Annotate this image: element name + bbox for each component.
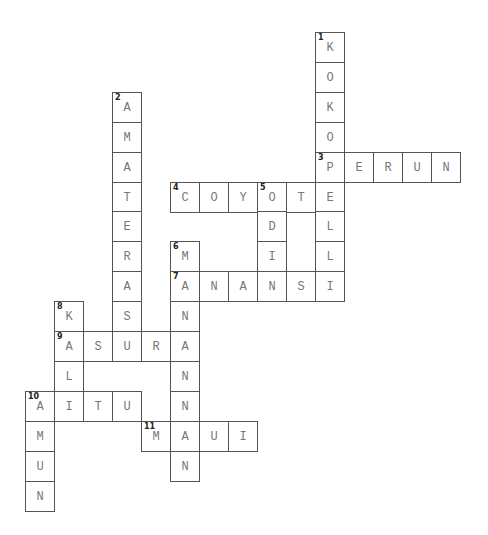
crossword-cell[interactable]: N [199, 271, 229, 302]
crossword-cell[interactable]: T [286, 182, 316, 213]
cell-letter: I [326, 280, 333, 294]
crossword-cell[interactable]: U [199, 421, 229, 452]
cell-letter: R [384, 161, 391, 175]
crossword-cell[interactable]: A [112, 271, 142, 302]
crossword-cell[interactable]: R [141, 331, 171, 362]
clue-number: 8 [57, 303, 63, 311]
crossword-cell[interactable]: 1K [315, 32, 345, 63]
cell-letter: N [442, 161, 449, 175]
cell-letter: T [123, 191, 130, 205]
cell-letter: N [210, 280, 217, 294]
cell-letter: O [210, 191, 217, 205]
crossword-cell[interactable]: L [54, 361, 84, 392]
crossword-cell[interactable]: R [373, 152, 403, 183]
crossword-cell[interactable]: I [54, 391, 84, 422]
clue-number: 5 [260, 184, 266, 192]
crossword-cell[interactable]: S [112, 301, 142, 332]
crossword-cell[interactable]: S [83, 331, 113, 362]
crossword-cell[interactable]: U [25, 451, 55, 482]
cell-letter: E [355, 161, 362, 175]
cell-letter: E [326, 191, 333, 205]
cell-letter: O [326, 71, 333, 85]
crossword-cell[interactable]: U [112, 331, 142, 362]
crossword-cell[interactable]: 9A [54, 331, 84, 362]
cell-letter: R [152, 340, 159, 354]
cell-letter: N [36, 490, 43, 504]
crossword-cell[interactable]: I [228, 421, 258, 452]
crossword-cell[interactable]: N [170, 361, 200, 392]
crossword-cell[interactable]: L [315, 241, 345, 272]
crossword-cell[interactable]: I [257, 241, 287, 272]
crossword-cell[interactable]: 4C [170, 182, 200, 213]
cell-letter: U [36, 460, 43, 474]
crossword-cell[interactable]: S [286, 271, 316, 302]
crossword-cell[interactable]: O [315, 122, 345, 153]
cell-letter: U [123, 400, 130, 414]
cell-letter: T [297, 191, 304, 205]
crossword-cell[interactable]: N [170, 451, 200, 482]
crossword-cell[interactable]: M [25, 421, 55, 452]
crossword-cell[interactable]: 8K [54, 301, 84, 332]
crossword-cell[interactable]: A [170, 421, 200, 452]
crossword-cell[interactable]: I [315, 271, 345, 302]
crossword-cell[interactable]: 2A [112, 92, 142, 123]
cell-letter: N [181, 400, 188, 414]
cell-letter: M [152, 430, 159, 444]
crossword-cell[interactable]: N [170, 301, 200, 332]
cell-letter: K [326, 101, 333, 115]
crossword-cell[interactable]: 7A [170, 271, 200, 302]
cell-letter: A [36, 400, 43, 414]
cell-letter: I [65, 400, 72, 414]
cell-letter: A [181, 340, 188, 354]
cell-letter: I [239, 430, 246, 444]
crossword-cell[interactable]: N [25, 481, 55, 512]
crossword-cell[interactable]: O [199, 182, 229, 213]
crossword-cell[interactable]: N [257, 271, 287, 302]
cell-letter: M [123, 131, 130, 145]
cell-letter: K [326, 41, 333, 55]
crossword-cell[interactable]: K [315, 92, 345, 123]
cell-letter: S [94, 340, 101, 354]
crossword-cell[interactable]: L [315, 211, 345, 242]
crossword-cell[interactable]: 11M [141, 421, 171, 452]
crossword-cell[interactable]: 6M [170, 241, 200, 272]
crossword-cell[interactable]: D [257, 211, 287, 242]
crossword-cell[interactable]: T [83, 391, 113, 422]
cell-letter: N [181, 310, 188, 324]
cell-letter: Y [239, 191, 246, 205]
crossword-cell[interactable]: A [112, 152, 142, 183]
cell-letter: A [123, 280, 130, 294]
crossword-cell[interactable]: 5O [257, 182, 287, 213]
crossword-cell[interactable]: N [170, 391, 200, 422]
crossword-cell[interactable]: T [112, 182, 142, 213]
clue-number: 1 [318, 34, 324, 42]
crossword-cell[interactable]: O [315, 62, 345, 93]
cell-letter: M [181, 250, 188, 264]
crossword-cell[interactable]: R [112, 241, 142, 272]
cell-letter: A [123, 101, 130, 115]
cell-letter: C [181, 191, 188, 205]
crossword-grid: 1KOKO3PELLI2AMATERASUERUN4COY5OTDIN6M7AN… [0, 0, 488, 535]
cell-letter: S [123, 310, 130, 324]
cell-letter: A [181, 280, 188, 294]
crossword-cell[interactable]: N [431, 152, 461, 183]
crossword-cell[interactable]: E [112, 211, 142, 242]
crossword-cell[interactable]: Y [228, 182, 258, 213]
cell-letter: L [326, 220, 333, 234]
clue-number: 6 [173, 243, 179, 251]
crossword-cell[interactable]: 3P [315, 152, 345, 183]
clue-number: 3 [318, 154, 324, 162]
cell-letter: P [326, 161, 333, 175]
crossword-cell[interactable]: U [402, 152, 432, 183]
cell-letter: N [181, 460, 188, 474]
crossword-cell[interactable]: A [228, 271, 258, 302]
crossword-cell[interactable]: M [112, 122, 142, 153]
cell-letter: O [326, 131, 333, 145]
crossword-cell[interactable]: E [315, 182, 345, 213]
crossword-cell[interactable]: A [170, 331, 200, 362]
crossword-cell[interactable]: 10A [25, 391, 55, 422]
cell-letter: D [268, 220, 275, 234]
crossword-cell[interactable]: E [344, 152, 374, 183]
crossword-cell[interactable]: U [112, 391, 142, 422]
cell-letter: S [297, 280, 304, 294]
